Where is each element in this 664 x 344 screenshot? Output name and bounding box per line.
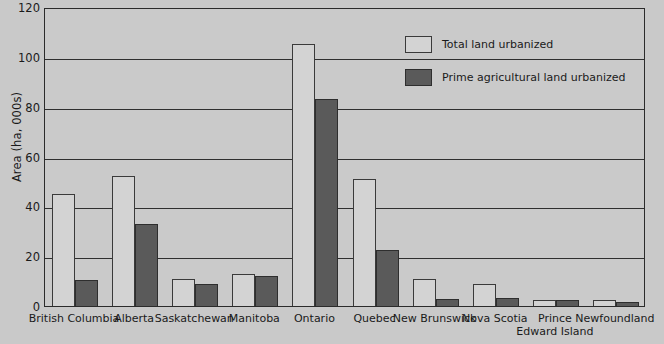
legend-label: Total land urbanized [442,38,553,51]
bar-group [353,9,399,306]
x-axis-category-labels: British ColumbiaAlbertaSaskatchewanManit… [0,312,664,344]
y-tick-label: 40 [2,200,40,214]
bar-group [232,9,278,306]
bar-prime-agricultural-land [255,276,278,306]
legend-swatch-prime-land [405,69,432,86]
bar-group [112,9,158,306]
legend-swatch-total-land [405,36,432,53]
bar-total-land [353,179,376,306]
legend-item: Total land urbanized [405,36,626,53]
bar-total-land [172,279,195,306]
bar-prime-agricultural-land [616,302,639,306]
x-axis-label: British Columbia [29,312,120,325]
bar-prime-agricultural-land [556,300,579,306]
bar-prime-agricultural-land [436,299,459,306]
x-axis-label: Newfoundland [575,312,654,325]
bar-total-land [112,176,135,306]
legend-label: Prime agricultural land urbanized [442,71,626,84]
x-axis-label: Quebec [353,312,395,325]
x-axis-label: Saskatchewan [155,312,234,325]
bar-prime-agricultural-land [315,99,338,306]
bar-prime-agricultural-land [75,280,98,306]
y-tick-label: 20 [2,250,40,264]
bar-total-land [473,284,496,306]
x-axis-label: Manitoba [229,312,280,325]
y-axis-tick-labels: 020406080100120 [0,0,40,344]
y-tick-label: 60 [2,151,40,165]
bar-total-land [593,300,616,306]
y-tick-label: 120 [2,1,40,15]
bar-group [172,9,218,306]
bar-total-land [533,300,556,306]
x-axis-label: Ontario [294,312,335,325]
legend-item: Prime agricultural land urbanized [405,69,626,86]
y-tick-label: 100 [2,51,40,65]
bar-prime-agricultural-land [376,250,399,306]
bar-group [52,9,98,306]
bar-total-land [292,44,315,306]
legend: Total land urbanizedPrime agricultural l… [405,36,626,102]
bar-total-land [52,194,75,306]
x-axis-label: Alberta [114,312,154,325]
bar-total-land [232,274,255,306]
y-tick-label: 80 [2,101,40,115]
bar-prime-agricultural-land [195,284,218,306]
bar-group [292,9,338,306]
bar-total-land [413,279,436,306]
bar-prime-agricultural-land [496,298,519,306]
bar-chart: Area (ha, 000s) 020406080100120 Total la… [0,0,664,344]
bar-prime-agricultural-land [135,224,158,306]
